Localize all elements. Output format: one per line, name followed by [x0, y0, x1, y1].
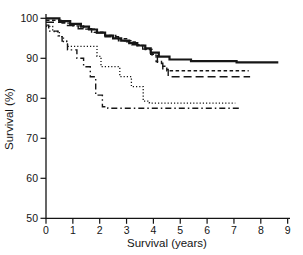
- y-axis-title: Survival (%): [3, 88, 15, 150]
- x-tick-label: 1: [70, 224, 76, 236]
- x-tick-label: 5: [177, 224, 183, 236]
- series-group-1-solid: [46, 18, 278, 62]
- series-group-2-short-dash: [46, 20, 249, 70]
- axis-lines: [46, 14, 290, 218]
- y-tick-label: 90: [26, 52, 38, 64]
- x-tick-label: 2: [97, 224, 103, 236]
- x-tick-label: 4: [150, 224, 156, 236]
- x-axis-title: Survival (years): [127, 237, 207, 249]
- x-tick-label: 7: [231, 224, 237, 236]
- y-tick-label: 60: [26, 172, 38, 184]
- x-tick-label: 8: [258, 224, 264, 236]
- survival-chart: 10090807060500123456789 Survival (%) Sur…: [0, 0, 303, 255]
- x-tick-label: 0: [43, 224, 49, 236]
- y-tick-label: 50: [26, 212, 38, 224]
- plot-area: 10090807060500123456789: [20, 12, 290, 235]
- y-tick-label: 80: [26, 92, 38, 104]
- y-tick-label: 70: [26, 132, 38, 144]
- survival-figure: 10090807060500123456789 Survival (%) Sur…: [0, 0, 303, 255]
- series-group-4-dotted: [46, 26, 235, 103]
- x-tick-label: 3: [124, 224, 130, 236]
- x-tick-label: 9: [285, 224, 291, 236]
- y-tick-label: 100: [20, 12, 38, 24]
- x-tick-label: 6: [204, 224, 210, 236]
